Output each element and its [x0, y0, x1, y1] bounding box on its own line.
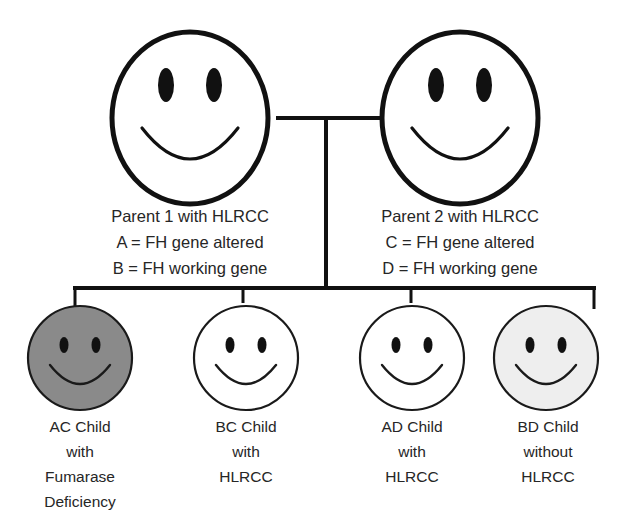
child-bc-node[interactable]: [194, 306, 298, 410]
child-ac-node[interactable]: [28, 306, 132, 410]
child-ac-face-icon: [28, 306, 132, 410]
parent-1-label-line-3: B = FH working gene: [113, 259, 268, 277]
child-bd-label-line-2: without: [522, 443, 573, 460]
child-ac-label-block: AC Child with Fumarase Deficiency: [44, 418, 116, 510]
child-ac-label-line-3: Fumarase: [45, 468, 115, 485]
child-bc-label-line-3: HLRCC: [219, 468, 272, 485]
child-ad-label-block: AD Child with HLRCC: [381, 418, 442, 485]
child-bd-node[interactable]: [494, 306, 598, 410]
child-bc-left-eye-icon: [226, 337, 235, 353]
parent-2-right-eye-icon: [476, 68, 492, 102]
parent-2-label-line-2: C = FH gene altered: [385, 233, 534, 251]
child-bc-label-block: BC Child with HLRCC: [215, 418, 276, 485]
parent-1-face-icon: [112, 32, 268, 204]
parent-1-node[interactable]: [112, 32, 268, 204]
parent-1-label-line-1: Parent 1 with HLRCC: [111, 207, 269, 225]
parent-2-face-icon: [382, 32, 538, 204]
parent-1-label-block: Parent 1 with HLRCC A = FH gene altered …: [111, 207, 269, 277]
child-bd-label-block: BD Child without HLRCC: [517, 418, 578, 485]
parent-2-node[interactable]: [382, 32, 538, 204]
child-ac-left-eye-icon: [60, 337, 69, 353]
parent-2-label-block: Parent 2 with HLRCC C = FH gene altered …: [381, 207, 539, 277]
child-bc-right-eye-icon: [258, 337, 267, 353]
child-ac-label-line-1: AC Child: [49, 418, 110, 435]
child-ad-face-icon: [360, 306, 464, 410]
parent-2-label-line-1: Parent 2 with HLRCC: [381, 207, 539, 225]
child-ac-label-line-4: Deficiency: [44, 493, 116, 510]
child-bd-right-eye-icon: [558, 337, 567, 353]
child-bd-left-eye-icon: [526, 337, 535, 353]
child-bc-label-line-2: with: [231, 443, 260, 460]
parent-2-left-eye-icon: [428, 68, 444, 102]
parent-1-right-eye-icon: [206, 68, 222, 102]
child-bd-face-icon: [494, 306, 598, 410]
pedigree-canvas: Parent 1 with HLRCC A = FH gene altered …: [0, 0, 625, 530]
child-ad-left-eye-icon: [392, 337, 401, 353]
parent-1-label-line-2: A = FH gene altered: [116, 233, 263, 251]
child-ac-right-eye-icon: [92, 337, 101, 353]
child-ad-label-line-3: HLRCC: [385, 468, 438, 485]
child-bd-label-line-3: HLRCC: [521, 468, 574, 485]
child-ad-right-eye-icon: [424, 337, 433, 353]
pedigree-diagram: Parent 1 with HLRCC A = FH gene altered …: [0, 0, 625, 530]
child-ad-label-line-2: with: [397, 443, 426, 460]
child-bc-label-line-1: BC Child: [215, 418, 276, 435]
child-bd-label-line-1: BD Child: [517, 418, 578, 435]
child-bc-face-icon: [194, 306, 298, 410]
parent-2-label-line-3: D = FH working gene: [382, 259, 537, 277]
parent-1-left-eye-icon: [158, 68, 174, 102]
child-ad-label-line-1: AD Child: [381, 418, 442, 435]
child-ad-node[interactable]: [360, 306, 464, 410]
child-ac-label-line-2: with: [65, 443, 94, 460]
